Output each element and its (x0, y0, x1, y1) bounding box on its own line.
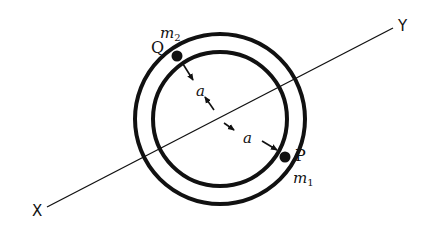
dimension-arrow-p-inner (224, 123, 234, 130)
dimension-label-a-p: a (243, 129, 252, 147)
dimension-label-a-q: a (196, 82, 205, 100)
dimension-arrow-p-outer (262, 141, 277, 150)
ring-diagram: X Y Q m2 P m1 a a (0, 0, 435, 228)
mass-p-label: m1 (293, 169, 314, 188)
point-p-dot (280, 152, 291, 163)
axis-label-y: Y (397, 17, 408, 35)
axis-line (47, 28, 393, 207)
dimension-arrow-q-inner (205, 97, 214, 110)
axis-label-x: X (32, 202, 42, 220)
inner-circle (153, 52, 287, 186)
point-q-dot (172, 51, 183, 62)
dimension-arrow-q-outer (183, 64, 193, 80)
point-p-label: P (295, 146, 306, 165)
mass-q-label: m2 (160, 24, 181, 43)
outer-circle (135, 34, 305, 204)
